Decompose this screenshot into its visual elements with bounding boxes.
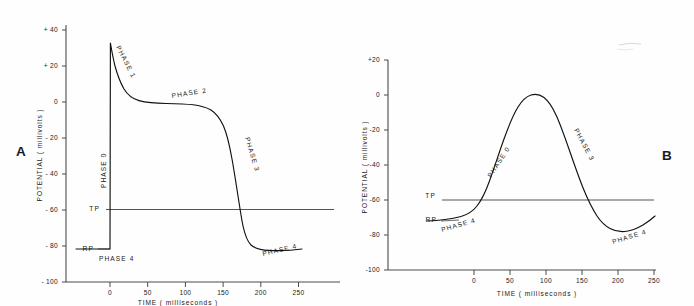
phase-0-label-a: PHASE 0 — [100, 152, 107, 188]
panel-a: + 40 + 20 0 - 20 - 40 - 60 - 80 - 100 0 … — [0, 0, 347, 306]
y-ticks-b — [384, 60, 388, 270]
y-tick-label: + 20 — [44, 62, 58, 69]
phase-4-right-label-a: PHASE 4 — [262, 242, 298, 257]
phase-3-label-b: PHASE 3 — [573, 127, 596, 162]
x-tick-label: 150 — [576, 277, 588, 284]
x-tick-label: 250 — [648, 277, 660, 284]
phase-1-label-a: PHASE 1 — [115, 44, 137, 79]
x-tick-label: 200 — [612, 277, 624, 284]
x-ticks-b — [474, 270, 654, 275]
x-tick-label: 100 — [540, 277, 552, 284]
panel-b: +20 0 -20 -40 -60 -80 -100 0 50 100 150 … — [347, 0, 694, 306]
y-tick-label: -60 — [370, 196, 380, 203]
y-axis-title-a: POTENTIAL ( millivolts ) — [36, 109, 44, 202]
x-tick-label: 50 — [506, 277, 514, 284]
scan-artifact-mark — [617, 49, 633, 50]
y-tick-label: -40 — [370, 161, 380, 168]
figure-root: + 40 + 20 0 - 20 - 40 - 60 - 80 - 100 0 … — [0, 0, 694, 306]
y-tick-label: - 60 — [45, 206, 58, 213]
x-axis-title-b: TIME ( milliseconds ) — [497, 290, 577, 298]
phase-3-label-a: PHASE 3 — [244, 136, 261, 172]
y-tick-label: - 40 — [45, 170, 58, 177]
y-tick-label: -20 — [370, 126, 380, 133]
panel-b-plot: +20 0 -20 -40 -60 -80 -100 0 50 100 150 … — [347, 0, 694, 306]
y-ticks-a — [62, 30, 66, 282]
x-tick-label: 150 — [217, 289, 229, 296]
tp-label-a: TP — [89, 205, 100, 212]
scan-artifact-mark — [619, 43, 641, 45]
rp-label-a: RP — [82, 245, 94, 252]
x-axis-title-a: TIME ( milliseconds ) — [138, 299, 218, 306]
panel-letter-a: A — [16, 144, 26, 159]
x-tick-label: 250 — [293, 289, 305, 296]
phase-2-label-a: PHASE 2 — [171, 87, 207, 99]
panel-letter-b: B — [662, 148, 672, 163]
y-tick-label: - 100 — [41, 278, 58, 285]
rp-label-b: RP — [425, 216, 437, 223]
x-tick-label: 0 — [108, 289, 112, 296]
y-tick-label: -80 — [370, 231, 380, 238]
x-tick-label: 50 — [144, 289, 152, 296]
y-tick-label: +20 — [368, 56, 380, 63]
phase-4-left-label-a: PHASE 4 — [99, 255, 135, 262]
y-tick-label: + 40 — [44, 26, 58, 33]
x-tick-label: 100 — [179, 289, 191, 296]
x-ticks-a — [110, 282, 299, 287]
y-tick-label: 0 — [54, 98, 58, 105]
y-tick-label: 0 — [376, 91, 380, 98]
x-tick-label: 200 — [255, 289, 267, 296]
tp-label-b: TP — [425, 192, 436, 199]
panel-a-plot: + 40 + 20 0 - 20 - 40 - 60 - 80 - 100 0 … — [0, 0, 347, 306]
pacemaker-potential-curve-b — [427, 94, 655, 231]
y-axis-title-b: POTENTIAL ( millivolts ) — [361, 121, 369, 214]
y-tick-label: -100 — [366, 266, 380, 273]
action-potential-curve-a — [76, 43, 302, 251]
x-tick-label: 0 — [472, 277, 476, 284]
y-tick-label: - 80 — [45, 242, 58, 249]
y-tick-label: - 20 — [45, 134, 58, 141]
phase-0-label-b: PHASE 0 — [486, 145, 511, 179]
